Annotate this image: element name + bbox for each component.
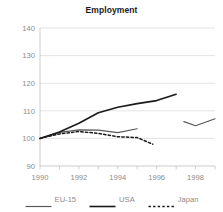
y-tick-label-100: 100 — [22, 134, 35, 143]
x-tick-label-1998: 1998 — [187, 173, 204, 182]
legend-swatch-eu-15 — [25, 196, 52, 203]
x-axis-tick-labels: 19901992199419961998 — [32, 173, 204, 182]
data-series — [40, 94, 215, 144]
y-tick-label-120: 120 — [22, 79, 35, 88]
x-tick-label-1994: 1994 — [109, 173, 126, 182]
legend-item-usa[interactable]: USA — [89, 195, 135, 204]
legend-label-japan: Japan — [178, 195, 199, 204]
legend-item-japan[interactable]: Japan — [148, 195, 199, 204]
axis-tickmarks — [40, 166, 215, 170]
y-tick-label-140: 140 — [22, 24, 35, 33]
chart-legend: EU-15USAJapan — [0, 190, 223, 208]
employment-line-chart: Employment 90100110120130140 19901992199… — [0, 0, 223, 212]
legend-label-eu-15: EU-15 — [55, 195, 77, 204]
legend-label-usa: USA — [119, 195, 135, 204]
legend-swatch-japan — [148, 196, 175, 203]
y-tick-label-130: 130 — [22, 51, 35, 60]
series-line-eu-15-segment-2 — [184, 119, 215, 126]
y-tick-label-90: 90 — [27, 162, 35, 171]
y-axis-tick-labels: 90100110120130140 — [22, 24, 35, 171]
gridlines — [40, 28, 215, 138]
chart-plot-area: 90100110120130140 19901992199419961998 — [0, 0, 223, 212]
x-tick-label-1990: 1990 — [32, 173, 49, 182]
axis-lines — [40, 28, 215, 166]
legend-item-eu-15[interactable]: EU-15 — [25, 195, 77, 204]
x-tick-label-1996: 1996 — [148, 173, 165, 182]
x-tick-label-1992: 1992 — [70, 173, 87, 182]
y-tick-label-110: 110 — [23, 107, 35, 116]
legend-swatch-usa — [89, 196, 116, 203]
